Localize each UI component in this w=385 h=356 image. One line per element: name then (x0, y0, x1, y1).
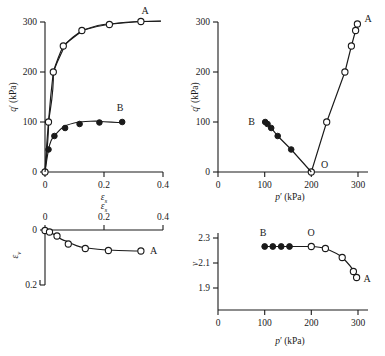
x-tick-label: 0.2 (98, 180, 110, 190)
data-point-open (65, 241, 71, 247)
y-axis-title-prime: ′ (190, 105, 200, 107)
data-point-filled (52, 133, 58, 139)
y-axis-title-group: q′(kPa) (8, 82, 19, 111)
curve-a-markers (42, 18, 144, 175)
data-point-open (322, 245, 328, 251)
data-point-open (350, 268, 356, 274)
point-label-o: O (307, 227, 314, 238)
y-tick-label: 1.9 (198, 283, 210, 293)
path-oa-markers (308, 21, 360, 175)
data-point-open (348, 43, 354, 49)
path-ob-markers (262, 119, 294, 152)
data-point-filled (46, 147, 52, 153)
data-point-open (353, 27, 359, 33)
data-point-open (342, 69, 348, 75)
x-tick-label: 0 (43, 212, 48, 222)
panel-q-vs-p-stress-path: 0 100 200 300 0 100 200 300 q′(kPa) p′(k… (190, 0, 385, 200)
x-axis-title: p′(kPa) (274, 336, 304, 347)
y-tick-label: 0.2 (25, 280, 37, 290)
panel-volumetric-strain-vs-shear-strain: 0 0.2 0.4 0 0.2 εv εs (0, 200, 195, 356)
x-tick-label: 200 (304, 180, 319, 190)
chart-svg-bottom-left: 0 0.2 0.4 0 0.2 εv εs (0, 200, 195, 356)
x-tick-label: 200 (304, 318, 319, 328)
data-point-filled (287, 244, 293, 250)
series-label-a: A (141, 5, 149, 16)
data-point-filled (275, 133, 281, 139)
data-point-open (54, 233, 60, 239)
x-tick-label: 0 (43, 180, 48, 190)
y-axis-title: q′(kPa) (190, 82, 201, 111)
data-point-filled (77, 121, 83, 127)
axes-top-left (40, 22, 163, 177)
series-label-a: A (364, 13, 372, 24)
series-label-b: B (260, 227, 267, 238)
y-tick-label: 0 (32, 225, 37, 235)
data-point-open (105, 247, 111, 253)
y-tick-label: 200 (196, 67, 211, 77)
y-axis-title-group: εv (10, 251, 23, 259)
x-axis-title-prime: ′ (280, 336, 282, 346)
data-point-open (60, 43, 66, 49)
data-point-filled (262, 244, 268, 250)
data-point-open (308, 243, 314, 249)
chart-svg-top-right: 0 100 200 300 0 100 200 300 q′(kPa) p′(k… (190, 0, 385, 200)
point-label-o: O (321, 159, 328, 170)
data-point-open (138, 18, 144, 24)
x-tick-label: 0.4 (157, 212, 169, 222)
data-point-open (354, 274, 360, 280)
path-oa-markers (308, 243, 360, 280)
x-tick-label: 0 (216, 180, 221, 190)
x-tick-label: 0.4 (157, 180, 169, 190)
x-tick-label: 0 (216, 318, 221, 328)
data-point-filled (262, 119, 268, 125)
data-point-open (50, 69, 56, 75)
data-point-open (45, 119, 51, 125)
y-axis-title-subscript: v (15, 251, 23, 255)
y-tick-label: 100 (196, 117, 211, 127)
curve-b-markers (46, 119, 125, 152)
data-point-filled (97, 120, 103, 126)
chart-svg-bottom-right: 2.3 2.1 1.9 0 100 200 300 v p′(kPa) B (190, 200, 385, 356)
x-tick-label: 300 (351, 318, 366, 328)
data-point-filled (278, 244, 284, 250)
y-tick-label: 200 (23, 67, 38, 77)
data-point-open (79, 27, 85, 33)
curve-b-smooth (45, 121, 122, 172)
y-axis-title: q′(kPa) (8, 82, 19, 111)
y-axis-title-units: (kPa) (8, 82, 19, 103)
curve-a-markers (42, 227, 144, 254)
y-tick-label: 100 (23, 117, 38, 127)
data-point-open (138, 248, 144, 254)
data-point-open (106, 21, 112, 27)
series-label-a: A (363, 273, 371, 284)
y-tick-label: 300 (196, 17, 211, 27)
y-tick-label: 0 (32, 167, 37, 177)
chart-svg-top-left: 0 100 200 300 0 0.2 0.4 q′(kPa) εs (0, 0, 195, 200)
y-tick-label: 2.3 (198, 233, 210, 243)
y-axis-title-prime: ′ (8, 105, 18, 107)
x-axis-title-units: (kPa) (284, 336, 305, 347)
data-point-filled (119, 119, 125, 125)
panel-q-vs-shear-strain: 0 100 200 300 0 0.2 0.4 q′(kPa) εs (0, 0, 195, 200)
axes-top-right (213, 22, 368, 177)
y-tick-label: 0 (205, 167, 210, 177)
y-axis-title-group: q′(kPa) (190, 82, 201, 111)
x-axis-title-subscript: s (105, 206, 108, 214)
figure-container: 0 100 200 300 0 0.2 0.4 q′(kPa) εs (0, 0, 385, 356)
series-label-a: A (150, 245, 158, 256)
data-point-open (82, 245, 88, 251)
data-point-filled (288, 147, 294, 153)
data-point-filled (62, 125, 68, 131)
data-point-filled (270, 244, 276, 250)
data-point-open (339, 254, 345, 260)
data-point-open (324, 119, 330, 125)
x-tick-label: 100 (258, 180, 273, 190)
y-tick-label: 300 (23, 17, 38, 27)
series-label-b: B (117, 102, 124, 113)
data-point-open (46, 229, 52, 235)
data-point-open (354, 21, 360, 27)
x-tick-label: 300 (351, 180, 366, 190)
y-axis-title: εv (10, 251, 23, 259)
y-axis-title-units: (kPa) (190, 82, 201, 103)
series-label-b: B (248, 116, 255, 127)
